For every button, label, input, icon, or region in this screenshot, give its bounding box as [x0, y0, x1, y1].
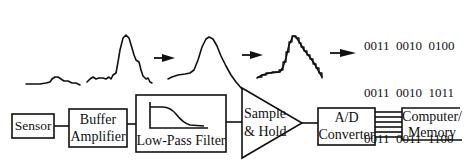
- computer-label-line1: Computer/: [402, 109, 462, 124]
- computer-memory-label: Computer/ Memory: [402, 109, 462, 140]
- sample-label-line2: & Hold: [244, 124, 294, 139]
- buffer-label-line2: Amplifier: [69, 129, 127, 144]
- low-pass-filter-label: Low-Pass Filter: [136, 133, 226, 148]
- digital-output-codes: 0011 0010 0100 0011 0010 1011 0011 0011 …: [364, 7, 455, 167]
- arrow-right-icon: [242, 51, 263, 59]
- amplified-signal-waveform: [87, 35, 152, 83]
- sample-hold-label: Sample & Hold: [244, 106, 294, 139]
- filtered-signal-waveform: [168, 37, 242, 89]
- ad-converter-label: A/D Converter: [318, 110, 375, 142]
- code-row: 0011 0010 0100: [364, 38, 455, 54]
- buffer-label-line1: Buffer: [69, 112, 127, 127]
- code-row: 0011 0010 1011: [364, 85, 455, 101]
- raw-signal-waveform: [26, 77, 80, 85]
- arrow-right-icon: [154, 54, 175, 62]
- sample-label-line1: Sample: [244, 106, 294, 121]
- ad-label-line2: Converter: [318, 127, 375, 142]
- filter-response-curve: [150, 102, 208, 128]
- arrow-right-icon: [330, 49, 356, 57]
- buffer-amplifier-label: Buffer Amplifier: [69, 112, 127, 144]
- staircase-steps: [258, 36, 322, 78]
- computer-label-line2: Memory: [402, 125, 462, 140]
- sensor-label: Sensor: [12, 118, 54, 133]
- ad-label-line1: A/D: [318, 110, 375, 125]
